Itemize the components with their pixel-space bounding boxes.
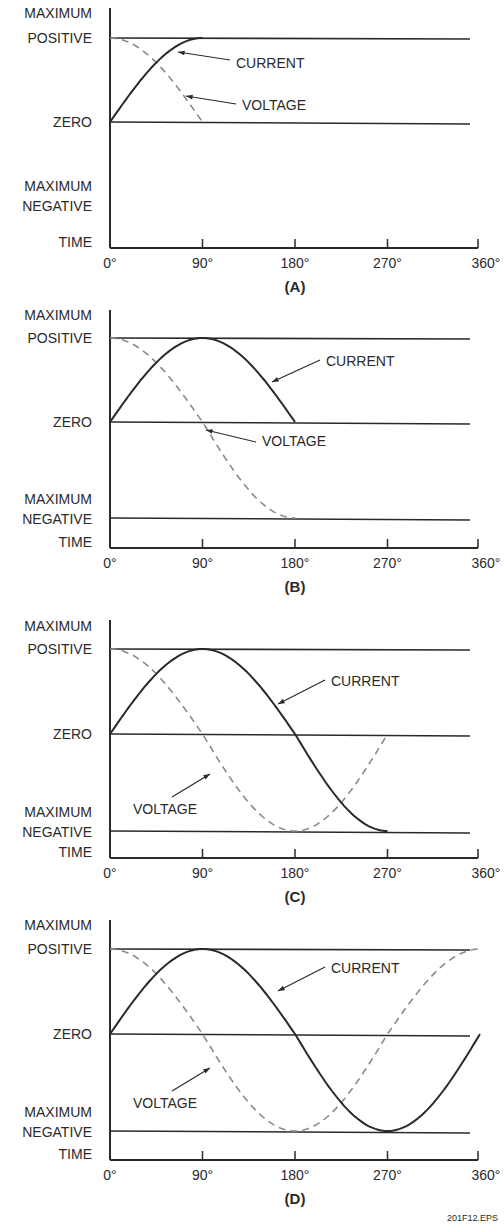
max-positive-label: POSITIVE — [27, 641, 92, 657]
max-negative-line — [110, 831, 470, 833]
arrow-head-icon — [278, 699, 285, 704]
max-positive-label: MAXIMUM — [24, 917, 92, 933]
time-label: TIME — [59, 234, 92, 250]
current-label: CURRENT — [331, 673, 400, 689]
voltage-curve — [110, 38, 203, 122]
x-tick-label: 270° — [373, 865, 402, 881]
voltage-curve — [110, 338, 295, 518]
max-negative-line — [110, 1131, 470, 1133]
panel-d: MAXIMUMPOSITIVEZEROMAXIMUMNEGATIVETIME0°… — [22, 917, 500, 1207]
max-negative-line — [110, 518, 470, 520]
x-tick-label: 360° — [472, 555, 501, 571]
x-tick-label: 0° — [103, 865, 116, 881]
arrow-line — [172, 1068, 210, 1091]
arrow-line — [178, 52, 230, 60]
waveform-figure: MAXIMUMPOSITIVEZEROMAXIMUMNEGATIVETIME0°… — [0, 0, 504, 1225]
arrow-head-icon — [203, 1068, 210, 1073]
arrow-head-icon — [278, 986, 285, 991]
voltage-label: VOLTAGE — [133, 1095, 197, 1111]
x-tick-label: 0° — [103, 255, 116, 271]
max-positive-line — [110, 38, 470, 39]
time-label: TIME — [59, 844, 92, 860]
figure-id: 201F12.EPS — [447, 1213, 498, 1223]
max-positive-label: POSITIVE — [27, 30, 92, 46]
arrow-line — [278, 967, 325, 991]
max-positive-label: MAXIMUM — [24, 5, 92, 21]
max-negative-label: MAXIMUM — [24, 491, 92, 507]
x-tick-label: 90° — [192, 555, 213, 571]
zero-line — [110, 1034, 470, 1036]
x-tick-label: 360° — [472, 255, 501, 271]
arrow-line — [186, 96, 236, 104]
current-curve — [110, 338, 295, 422]
max-negative-label: MAXIMUM — [24, 804, 92, 820]
max-negative-label: NEGATIVE — [22, 824, 92, 840]
x-tick-label: 270° — [373, 555, 402, 571]
panel-caption: (A) — [285, 278, 306, 295]
panel-caption: (B) — [285, 578, 306, 595]
max-negative-label: MAXIMUM — [24, 178, 92, 194]
panel-caption: (C) — [285, 888, 306, 905]
max-negative-label: MAXIMUM — [24, 1104, 92, 1120]
x-tick-label: 360° — [472, 1167, 501, 1183]
x-tick-label: 270° — [373, 255, 402, 271]
current-label: CURRENT — [326, 353, 395, 369]
max-positive-label: POSITIVE — [27, 941, 92, 957]
arrow-line — [172, 774, 210, 797]
x-tick-label: 90° — [192, 1167, 213, 1183]
current-curve — [110, 38, 203, 122]
time-label: TIME — [59, 1146, 92, 1162]
x-tick-label: 0° — [103, 1167, 116, 1183]
panel-caption: (D) — [285, 1190, 306, 1207]
arrow-head-icon — [272, 377, 279, 382]
zero-label: ZERO — [53, 726, 92, 742]
arrow-head-icon — [203, 774, 210, 779]
max-positive-label: MAXIMUM — [24, 618, 92, 634]
zero-line — [110, 422, 470, 424]
max-negative-label: NEGATIVE — [22, 511, 92, 527]
voltage-label: VOLTAGE — [133, 801, 197, 817]
zero-label: ZERO — [53, 1026, 92, 1042]
x-tick-label: 180° — [281, 555, 310, 571]
arrow-head-icon — [178, 51, 185, 56]
arrow-line — [278, 680, 325, 704]
max-negative-label: NEGATIVE — [22, 198, 92, 214]
panel-a: MAXIMUMPOSITIVEZEROMAXIMUMNEGATIVETIME0°… — [22, 5, 500, 295]
max-positive-line — [110, 949, 470, 950]
zero-label: ZERO — [53, 414, 92, 430]
arrow-head-icon — [186, 95, 193, 100]
x-tick-label: 180° — [281, 1167, 310, 1183]
x-tick-label: 180° — [281, 865, 310, 881]
zero-line — [110, 734, 470, 736]
voltage-label: VOLTAGE — [242, 97, 306, 113]
time-label: TIME — [59, 534, 92, 550]
x-tick-label: 90° — [192, 865, 213, 881]
x-tick-label: 0° — [103, 555, 116, 571]
max-positive-line — [110, 649, 470, 650]
current-label: CURRENT — [236, 55, 305, 71]
x-tick-label: 180° — [281, 255, 310, 271]
zero-line — [110, 122, 470, 124]
voltage-label: VOLTAGE — [262, 433, 326, 449]
panel-c: MAXIMUMPOSITIVEZEROMAXIMUMNEGATIVETIME0°… — [22, 618, 500, 905]
arrow-head-icon — [206, 429, 213, 434]
max-positive-line — [110, 338, 470, 339]
max-negative-label: NEGATIVE — [22, 1124, 92, 1140]
x-tick-label: 360° — [472, 865, 501, 881]
arrow-line — [272, 360, 320, 382]
x-tick-label: 270° — [373, 1167, 402, 1183]
zero-label: ZERO — [53, 114, 92, 130]
current-label: CURRENT — [331, 960, 400, 976]
max-positive-label: POSITIVE — [27, 330, 92, 346]
max-positive-label: MAXIMUM — [24, 307, 92, 323]
x-tick-label: 90° — [192, 255, 213, 271]
panel-b: MAXIMUMPOSITIVEZEROMAXIMUMNEGATIVETIME0°… — [22, 307, 500, 595]
